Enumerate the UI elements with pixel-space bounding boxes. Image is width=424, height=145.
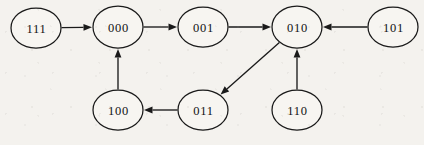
arrowhead-111-to-000-icon — [83, 24, 92, 31]
arrowhead-011-to-100-icon — [144, 107, 153, 114]
node-000-label: 000 — [108, 21, 129, 35]
edge-010-to-011 — [227, 43, 279, 89]
arrowhead-001-to-010-icon — [263, 24, 272, 31]
arrowhead-101-to-010-icon — [323, 24, 332, 31]
arrowhead-100-to-000-icon — [115, 49, 122, 58]
node-101[interactable]: 101 — [368, 7, 418, 47]
arrowhead-000-to-001-icon — [169, 24, 178, 31]
node-010-label: 010 — [287, 21, 308, 35]
node-001-label: 001 — [193, 21, 214, 35]
node-110[interactable]: 110 — [272, 90, 322, 130]
node-111-label: 111 — [26, 22, 46, 36]
node-011[interactable]: 011 — [178, 90, 228, 130]
node-011-label: 011 — [193, 104, 214, 118]
node-100-label: 100 — [108, 104, 129, 118]
node-111[interactable]: 111 — [11, 8, 61, 48]
node-100[interactable]: 100 — [93, 90, 143, 130]
node-010[interactable]: 010 — [272, 6, 322, 48]
directed-graph: 111000001010101100011110 — [0, 0, 424, 145]
node-101-label: 101 — [383, 21, 404, 35]
node-001[interactable]: 001 — [178, 7, 228, 47]
node-110-label: 110 — [287, 104, 308, 118]
arrowhead-110-to-010-icon — [294, 49, 301, 58]
diagram-canvas: 111000001010101100011110 — [0, 0, 424, 145]
node-000[interactable]: 000 — [93, 6, 143, 48]
node-layer: 111000001010101100011110 — [11, 6, 418, 130]
